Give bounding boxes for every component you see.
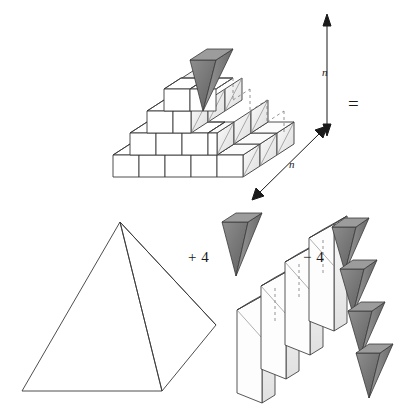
slab-apex-wedge: [222, 213, 262, 276]
equals-sign: =: [348, 93, 359, 115]
wedge-4: [356, 344, 393, 398]
smooth-pyramid: [22, 222, 216, 391]
n-label-vertical: n: [322, 66, 328, 78]
n-label-diagonal: n: [289, 158, 295, 170]
staircase-slabs: [222, 213, 347, 403]
minus-four-label: − 4: [303, 249, 324, 266]
diagram-canvas: [0, 0, 402, 414]
plus-four-label: + 4: [188, 249, 209, 266]
stepped-pyramid: [113, 49, 294, 177]
figure-root: = + 4 − 4 n n: [0, 0, 402, 414]
